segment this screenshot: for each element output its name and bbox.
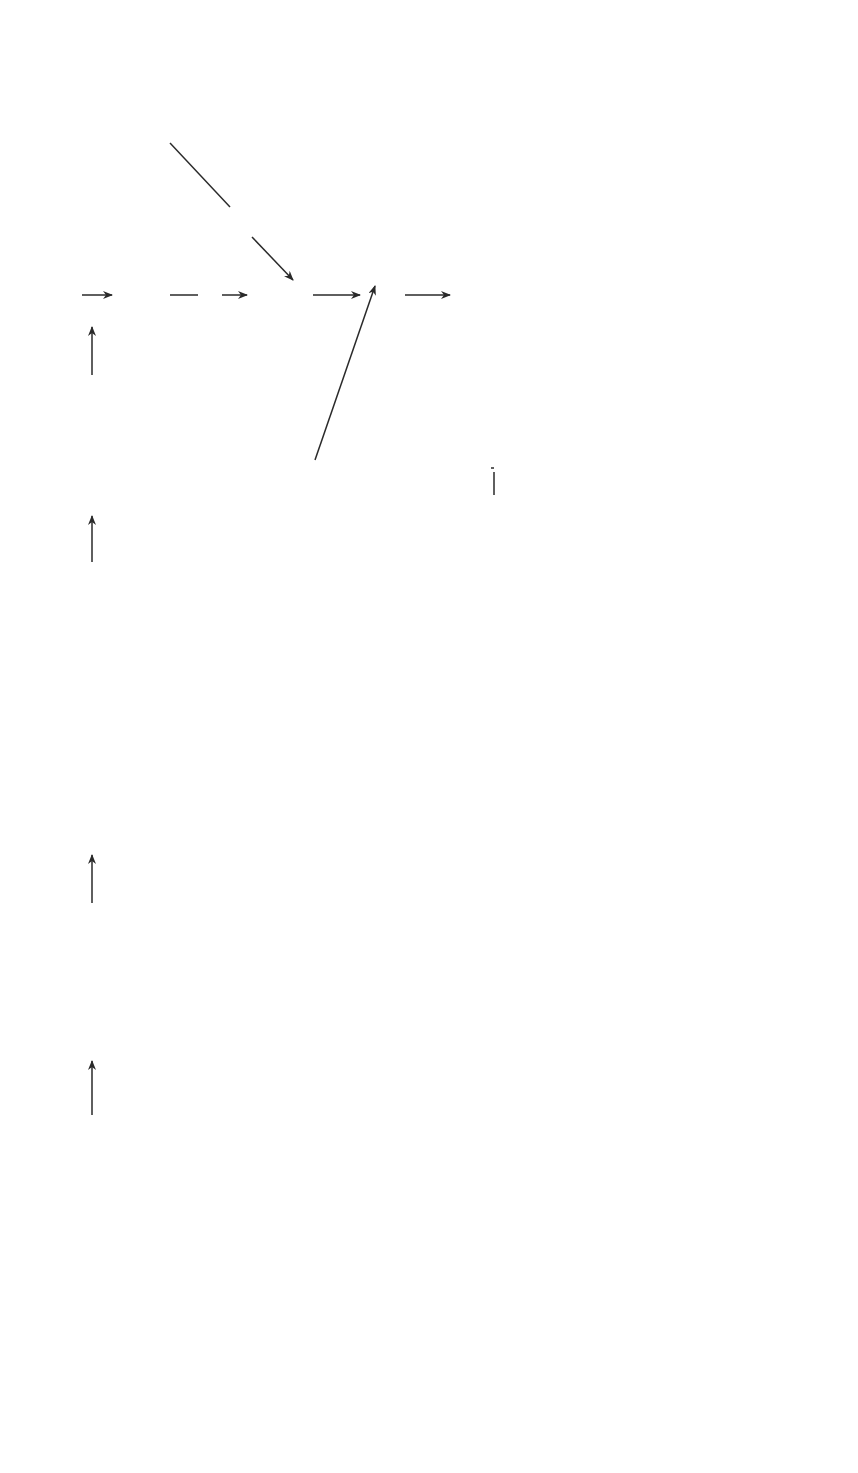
connector-lines [0,0,858,1473]
flowchart-canvas [0,0,858,1473]
